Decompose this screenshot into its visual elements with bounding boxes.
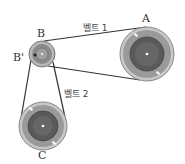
label-belt-2: 벨트 2	[64, 89, 89, 99]
label-a: A	[141, 12, 151, 25]
pulley-diagram: A B B' C 벨트 1 벨트 2	[0, 0, 185, 164]
label-b-prime: B'	[13, 51, 24, 64]
pulley-c	[19, 102, 67, 150]
pulley-b	[29, 41, 55, 67]
label-b: B	[37, 27, 45, 40]
label-belt-1: 벨트 1	[83, 23, 108, 33]
pulley-a	[120, 27, 174, 81]
label-c: C	[38, 149, 46, 162]
